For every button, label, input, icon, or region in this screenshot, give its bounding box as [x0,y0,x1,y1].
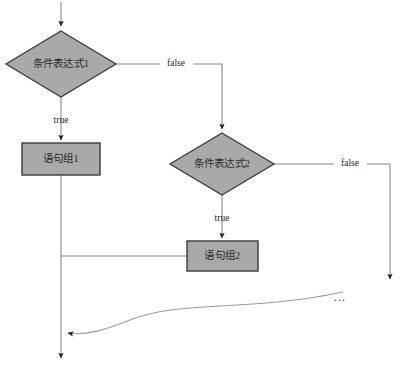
flowchart-svg: 条件表达式1 语句组1 条件表达式2 语句组2 false true [0,0,407,369]
edge-cond2-false-to-exit [274,164,390,279]
node-cond2[interactable]: 条件表达式2 [170,133,274,195]
edge-continuation-curve [68,292,343,334]
stmt2-label: 语句组2 [204,249,240,261]
node-stmt1[interactable]: 语句组1 [22,143,100,175]
node-cond1[interactable]: 条件表达式1 [6,31,116,97]
annotation-layer: ... [334,290,346,304]
edge-label-true-2: true [215,213,230,223]
node-layer: 条件表达式1 语句组1 条件表达式2 语句组2 [6,31,274,271]
node-stmt2[interactable]: 语句组2 [187,241,258,271]
flowchart-canvas: 条件表达式1 语句组1 条件表达式2 语句组2 false true [0,0,407,369]
cond2-label: 条件表达式2 [194,157,250,169]
edge-label-true-1: true [54,115,69,125]
edge-label-false-1: false [167,58,185,68]
edge-label-false-2: false [341,158,359,168]
cond1-label: 条件表达式1 [33,57,89,69]
continuation-ellipsis-label: ... [334,290,346,304]
stmt1-label: 语句组1 [43,152,79,164]
edge-cond1-false-to-cond2 [116,64,222,129]
